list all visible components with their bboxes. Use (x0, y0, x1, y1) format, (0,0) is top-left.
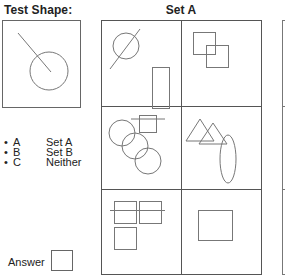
option-letter: C (13, 157, 21, 167)
bullet-icon: • (4, 157, 8, 167)
set-a-panel-2-1 (109, 116, 165, 175)
set-a-panel-1-1 (110, 29, 170, 109)
test-circle-shape (30, 52, 68, 90)
set-a-panel-3-1 (110, 202, 165, 250)
set-a-grid (101, 20, 262, 275)
set-a-panel-2-2 (186, 119, 236, 183)
answer-label: Answer (8, 256, 45, 268)
test-shape-panel (3, 21, 81, 108)
option-c[interactable]: • C Neither (4, 157, 94, 167)
set-b-grid-edge (282, 20, 285, 275)
answer-input-box[interactable] (51, 250, 73, 271)
set-a-panel-1-2 (194, 33, 229, 68)
set-a-panel-3-2 (199, 211, 233, 241)
option-label: Neither (46, 157, 81, 167)
